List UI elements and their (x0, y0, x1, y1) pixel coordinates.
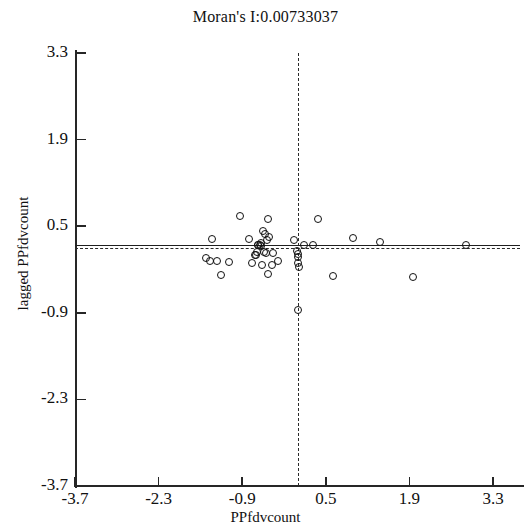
scatter-point (274, 257, 282, 265)
scatter-point (225, 258, 233, 266)
x-axis-line (74, 485, 524, 487)
scatter-point (213, 257, 221, 265)
regression-line-solid (75, 245, 520, 247)
x-tick-label: 0.5 (296, 489, 356, 509)
x-tick-mark (492, 477, 494, 486)
y-axis-line (75, 50, 77, 488)
scatter-point (258, 261, 266, 269)
scatter-point (269, 249, 277, 257)
scatter-point (376, 238, 384, 246)
scatter-point (248, 259, 256, 267)
scatter-point (349, 234, 357, 242)
y-axis-title: lagged PPfdvcount (15, 139, 32, 369)
scatter-point (217, 271, 225, 279)
x-tick-label: -3.7 (45, 489, 105, 509)
scatter-point (295, 263, 303, 271)
y-tick-label: -2.3 (8, 388, 68, 408)
x-tick-label: 3.3 (463, 489, 523, 509)
x-tick-mark (241, 477, 243, 486)
moran-scatterplot: Moran's I:0.00733037 3.31.90.5-0.9-2.3-3… (0, 0, 531, 531)
x-tick-label: -0.9 (212, 489, 272, 509)
scatter-point (409, 273, 417, 281)
y-tick-mark (77, 139, 86, 141)
x-axis-title: PPfdvcount (0, 509, 531, 526)
y-tick-mark (77, 312, 86, 314)
scatter-point (264, 215, 272, 223)
scatter-point (245, 235, 253, 243)
chart-title: Moran's I:0.00733037 (0, 8, 531, 26)
scatter-point (264, 270, 272, 278)
y-tick-mark (77, 485, 86, 487)
x-tick-mark (74, 477, 76, 486)
scatter-point (309, 241, 317, 249)
x-tick-mark (158, 477, 160, 486)
y-tick-label: 3.3 (8, 42, 68, 62)
x-tick-mark (409, 477, 411, 486)
scatter-point (208, 235, 216, 243)
y-tick-mark (77, 225, 86, 227)
scatter-point (294, 306, 302, 314)
scatter-point (329, 272, 337, 280)
scatter-point (314, 215, 322, 223)
x-tick-mark (325, 477, 327, 486)
y-tick-mark (77, 52, 86, 54)
scatter-point (252, 251, 260, 259)
x-tick-label: 1.9 (379, 489, 439, 509)
y-tick-mark (77, 399, 86, 401)
x-tick-label: -2.3 (129, 489, 189, 509)
scatter-point (236, 212, 244, 220)
